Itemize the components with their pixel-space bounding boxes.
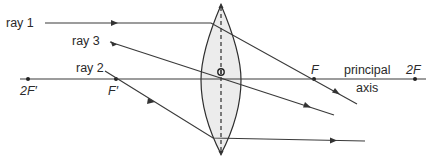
label-f-prime: F′	[108, 84, 119, 98]
ray-2-out-arrow-icon	[330, 138, 337, 144]
label-2f-prime: 2F′	[19, 84, 38, 98]
label-f: F	[311, 63, 320, 77]
label-principal: principal	[344, 63, 391, 77]
lens-top-tip-icon	[219, 3, 224, 8]
point-2f-prime	[26, 77, 30, 81]
lens-ray-diagram: ray 1 ray 3 ray 2 2F′ F′ F principal axi…	[0, 0, 444, 167]
label-ray-3: ray 3	[72, 34, 100, 48]
ray-3-out-arrow-icon	[303, 102, 311, 108]
label-ray-2: ray 2	[76, 61, 104, 75]
lens-bottom-tip-icon	[219, 151, 224, 156]
label-2f: 2F	[405, 63, 422, 77]
label-ray-1: ray 1	[6, 16, 34, 30]
ray-1-out-arrow-icon	[332, 88, 340, 95]
point-2f	[413, 77, 417, 81]
ray-1-arrow-icon	[111, 20, 118, 26]
label-axis: axis	[356, 81, 378, 95]
